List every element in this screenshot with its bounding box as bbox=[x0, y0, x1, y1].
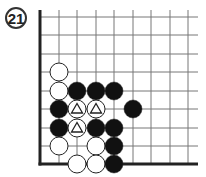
white-stone bbox=[50, 137, 68, 155]
go-board bbox=[0, 0, 206, 177]
black-stone bbox=[105, 82, 123, 100]
white-stone bbox=[50, 82, 68, 100]
black-stone bbox=[105, 155, 123, 173]
black-stone bbox=[105, 119, 123, 137]
black-stone bbox=[124, 100, 142, 118]
black-stone bbox=[50, 119, 68, 137]
white-stone bbox=[87, 155, 105, 173]
black-stone bbox=[87, 119, 105, 137]
black-stone bbox=[87, 82, 105, 100]
white-stone bbox=[50, 63, 68, 81]
black-stone bbox=[105, 137, 123, 155]
black-stone bbox=[68, 82, 86, 100]
white-stone bbox=[87, 137, 105, 155]
black-stone bbox=[50, 100, 68, 118]
white-stone bbox=[68, 155, 86, 173]
